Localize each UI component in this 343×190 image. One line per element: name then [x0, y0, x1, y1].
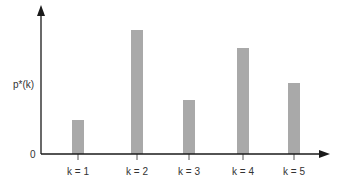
x-tick-label: k = 1 — [67, 166, 89, 177]
bar-2 — [131, 30, 143, 154]
bar-5 — [288, 83, 300, 154]
x-axis-arrow-icon — [319, 150, 330, 158]
x-tick-label: k = 3 — [178, 166, 200, 177]
origin-label: 0 — [30, 149, 36, 160]
bar-1 — [72, 120, 84, 154]
x-tick-label: k = 2 — [126, 166, 148, 177]
bar-4 — [237, 48, 249, 154]
x-tick-label: k = 4 — [232, 166, 254, 177]
x-tick-label: k = 5 — [283, 166, 305, 177]
x-tick-labels: k = 1k = 2k = 3k = 4k = 5 — [67, 166, 305, 177]
bars-group — [72, 30, 300, 154]
y-axis-label: p*(k) — [13, 79, 34, 90]
y-axis-arrow-icon — [37, 5, 45, 16]
bar-chart: p*(k) 0 k = 1k = 2k = 3k = 4k = 5 — [0, 0, 343, 190]
bar-3 — [183, 100, 195, 154]
x-ticks-group — [78, 154, 294, 160]
